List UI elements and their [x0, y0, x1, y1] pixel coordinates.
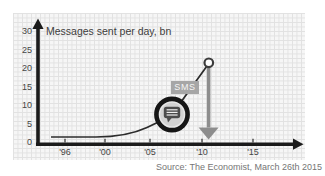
y-tick-label: 15 — [0, 82, 32, 92]
x-tick-label: '96 — [50, 147, 80, 157]
x-tick-label: '05 — [135, 147, 165, 157]
x-tick-label: '15 — [238, 147, 268, 157]
y-axis-arrowhead-icon — [32, 19, 43, 30]
x-axis-tick-marks — [65, 139, 253, 143]
y-tick-label: 0 — [0, 137, 32, 147]
economist-sms-chart: Messages sent per day, bn 30 25 20 15 10… — [0, 0, 325, 176]
y-tick-label: 25 — [0, 45, 32, 55]
chat-badge — [156, 99, 187, 130]
chart-title: Messages sent per day, bn — [46, 25, 171, 37]
decline-arrow-head-icon — [199, 128, 219, 140]
y-tick-label: 20 — [0, 63, 32, 73]
y-tick-label: 30 — [0, 26, 32, 36]
x-axis-arrowhead-icon — [293, 139, 304, 150]
sms-series-label: SMS — [171, 81, 199, 94]
source-caption: Source: The Economist, March 26th 2015 — [156, 162, 322, 173]
x-tick-label: '00 — [90, 147, 120, 157]
y-tick-label: 10 — [0, 100, 32, 110]
peak-marker-icon — [205, 59, 214, 68]
y-tick-label: 5 — [0, 119, 32, 129]
x-tick-label: '10 — [187, 147, 217, 157]
